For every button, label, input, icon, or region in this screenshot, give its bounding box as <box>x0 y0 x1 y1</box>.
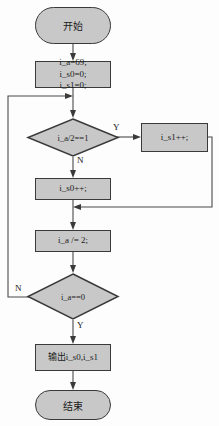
decision-bit-shape <box>27 118 119 157</box>
arrow-zero-yes-to-output <box>70 336 76 344</box>
node-decision-bit[interactable]: i_a/2==1 <box>27 118 119 157</box>
arrow-bit-yes-to-inc-s1 <box>133 134 141 140</box>
node-decision-zero[interactable]: i_a==0 <box>27 273 119 320</box>
arrow-to-decision-bit <box>70 110 76 118</box>
node-inc-s1[interactable]: i_s1++; <box>141 123 208 152</box>
node-output-label: 输出i_s0,i_s1 <box>48 352 98 364</box>
edge-label-bit-yes: Y <box>113 122 120 132</box>
node-halve[interactable]: i_a /= 2; <box>35 230 111 252</box>
arrow-bit-no-to-inc-s0 <box>70 170 76 178</box>
arrow-inc-s1-merge <box>73 204 81 210</box>
node-output[interactable]: 输出i_s0,i_s1 <box>35 344 111 371</box>
node-init[interactable]: i_a=69; i_s0=0; i_s1=0; <box>35 61 111 88</box>
node-inc-s0-label: i_s0++; <box>59 183 87 195</box>
edge-label-bit-no: N <box>77 155 84 165</box>
node-start[interactable]: 开始 <box>35 7 111 44</box>
node-end-label: 结束 <box>63 398 84 413</box>
arrow-merge-to-halve <box>70 222 76 230</box>
node-end[interactable]: 结束 <box>35 390 111 420</box>
node-inc-s0[interactable]: i_s0++; <box>35 178 111 200</box>
edge-label-zero-yes: Y <box>77 320 84 330</box>
flowchart-canvas: 开始 i_a=69; i_s0=0; i_s1=0; i_a/2==1 i_s1… <box>0 0 219 426</box>
edge-label-zero-no: N <box>15 283 22 293</box>
node-start-label: 开始 <box>63 18 84 33</box>
node-halve-label: i_a /= 2; <box>58 235 88 247</box>
arrow-output-to-end <box>70 382 76 390</box>
node-init-label: i_a=69; i_s0=0; i_s1=0; <box>59 57 87 92</box>
decision-zero-shape <box>27 273 119 320</box>
arrow-zero-no-merge <box>65 93 73 99</box>
arrow-halve-to-decision-zero <box>70 265 76 273</box>
node-inc-s1-label: i_s1++; <box>161 132 189 144</box>
